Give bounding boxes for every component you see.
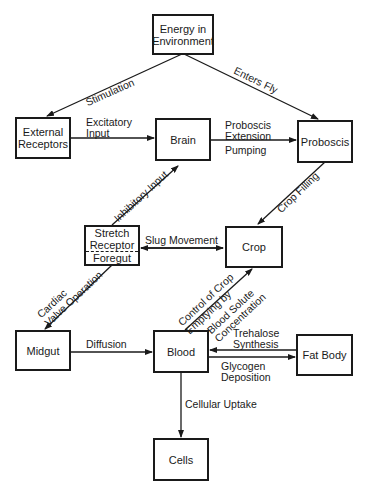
node-stretch-receptor-foregut: Stretch Receptor Foregut bbox=[84, 225, 140, 266]
node-crop: Crop bbox=[225, 226, 283, 268]
label-pumping: Pumping bbox=[225, 145, 266, 156]
label-excitatory-input: Excitatory Input bbox=[86, 117, 132, 139]
node-blood: Blood bbox=[153, 330, 209, 373]
node-fat-body: Fat Body bbox=[296, 334, 353, 376]
connector-lines bbox=[0, 0, 366, 492]
node-foregut: Foregut bbox=[86, 252, 138, 264]
node-stretch-receptor: Stretch Receptor bbox=[86, 227, 138, 252]
node-brain: Brain bbox=[155, 118, 211, 161]
node-midgut: Midgut bbox=[15, 330, 71, 371]
label-proboscis-extension: Proboscis Extension bbox=[225, 120, 271, 142]
node-cells: Cells bbox=[153, 438, 209, 481]
node-energy-in-environment: Energy in Environment bbox=[152, 14, 214, 55]
node-proboscis: Proboscis bbox=[297, 120, 353, 163]
label-glycogen-deposition: Glycogen Deposition bbox=[221, 361, 271, 383]
label-diffusion: Diffusion bbox=[86, 339, 127, 350]
label-trehalose-synthesis: Trehalose Synthesis bbox=[233, 328, 279, 350]
label-slug-movement: Slug Movement bbox=[145, 235, 218, 246]
label-cellular-uptake: Cellular Uptake bbox=[185, 399, 257, 410]
node-external-receptors: External Receptors bbox=[15, 117, 71, 159]
